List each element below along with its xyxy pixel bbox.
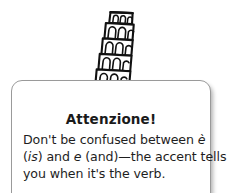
callout-heading: Attenzione! [12,111,210,127]
body-line2-conjunction: ) and [38,149,74,164]
body-line1-text: Don't be confused between [23,132,198,147]
callout-card: Attenzione! Don't be confused between è … [11,80,211,193]
body-line2-emphasis-is: is [28,149,38,164]
attenzione-callout: Attenzione! Don't be confused between è … [0,0,227,193]
callout-body-line-2: (is) and e (and)—the accent tells [23,148,200,165]
callout-body: Don't be confused between è (is) and e (… [23,131,200,183]
body-line1-emphasis: è [198,132,206,147]
body-line2-tail: (and)—the accent tells [81,149,226,164]
callout-body-line-3: you when it's the verb. [23,165,200,182]
callout-body-line-1: Don't be confused between è [23,131,200,148]
